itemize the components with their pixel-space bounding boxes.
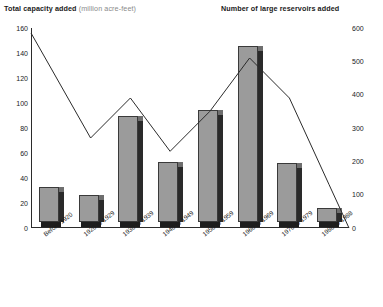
right-tick-600: 600 xyxy=(352,25,378,32)
right-tick-300: 300 xyxy=(352,125,378,132)
left-tick-80: 80 xyxy=(2,125,28,132)
right-tick-0: 0 xyxy=(352,225,378,232)
chart-container: Total capacity added (million acre-feet)… xyxy=(0,0,383,307)
left-tick-140: 140 xyxy=(2,50,28,57)
left-tick-160: 160 xyxy=(2,25,28,32)
left-axis-title-main: Total capacity added xyxy=(4,4,79,13)
line-series-reservoirs xyxy=(31,28,349,228)
plot-area xyxy=(31,28,349,228)
left-tick-60: 60 xyxy=(2,150,28,157)
right-axis-title: Number of large reservoirs added xyxy=(221,4,339,13)
right-tick-200: 200 xyxy=(352,158,378,165)
left-tick-120: 120 xyxy=(2,75,28,82)
right-tick-500: 500 xyxy=(352,58,378,65)
right-tick-400: 400 xyxy=(352,91,378,98)
left-tick-40: 40 xyxy=(2,175,28,182)
reservoirs-line-path xyxy=(31,33,349,228)
left-tick-20: 20 xyxy=(2,200,28,207)
left-axis-title-unit: (million acre-feet) xyxy=(79,4,136,13)
left-tick-100: 100 xyxy=(2,100,28,107)
left-axis-title: Total capacity added (million acre-feet) xyxy=(4,4,136,13)
left-tick-0: 0 xyxy=(2,225,28,232)
right-tick-100: 100 xyxy=(352,191,378,198)
chart-legend: Capacity Reservoirs xyxy=(0,278,383,302)
